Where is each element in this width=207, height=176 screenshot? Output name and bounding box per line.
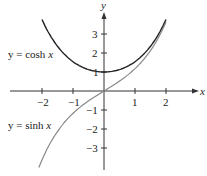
x-tick-label: −1 <box>68 96 80 108</box>
y-tick-label: 3 <box>92 28 98 40</box>
x-axis-arrow-icon <box>192 89 199 94</box>
y-axis-arrow-icon <box>102 12 107 19</box>
x-tick-label: −2 <box>37 96 49 108</box>
x-axis-label: x <box>199 85 205 97</box>
sinh-label: y = sinh x <box>8 119 51 131</box>
chart: x y −2 −1 1 2 3 2 1 −1 −2 −3 y = cosh x … <box>0 0 207 176</box>
sinh-curve <box>39 22 166 167</box>
y-axis-label: y <box>100 0 106 11</box>
x-tick-label: 1 <box>132 96 138 108</box>
cosh-label: y = cosh x <box>8 48 53 60</box>
y-tick-label: 2 <box>92 47 98 59</box>
y-tick-label: −3 <box>86 142 98 154</box>
x-tick-label: 2 <box>163 96 169 108</box>
y-tick-label: −1 <box>86 104 98 116</box>
y-tick-label: −2 <box>86 123 98 135</box>
